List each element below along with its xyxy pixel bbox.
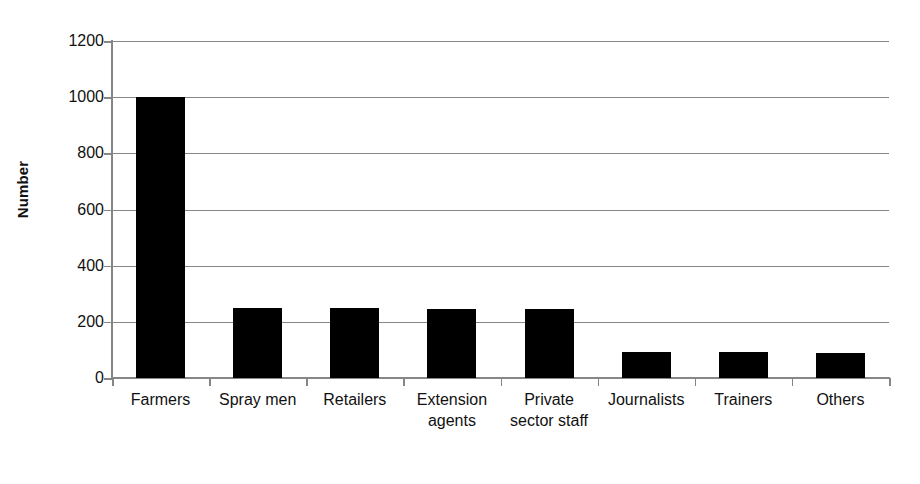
bar-chart: Number 020040060080010001200 FarmersSpra… [0,0,920,484]
gridline [112,97,889,98]
x-axis-tick-mark [501,378,503,386]
x-axis-tick-mark [598,378,600,386]
y-axis-tick-label: 1000 [46,89,104,105]
bar [427,309,476,378]
y-axis-tick-label: 400 [46,258,104,274]
x-axis-category-label: Others [792,389,889,410]
bar [233,308,282,378]
bar [719,352,768,378]
bar [525,309,574,378]
x-axis-tick-mark [112,378,114,386]
y-axis-tick-label: 0 [46,370,104,386]
bar [330,308,379,378]
x-axis-category-label: Trainers [695,389,792,410]
bar [622,352,671,378]
x-axis-tick-mark [792,378,794,386]
gridline [112,322,889,323]
y-axis-tick-label: 1200 [46,33,104,49]
x-axis-category-label: Private sector staff [501,389,598,431]
x-axis-tick-mark [209,378,211,386]
gridline [112,210,889,211]
x-axis-category-label: Spray men [209,389,306,410]
gridline [112,266,889,267]
x-axis-tick-mark [403,378,405,386]
y-axis-tick-label: 600 [46,202,104,218]
x-axis-category-label: Farmers [112,389,209,410]
y-axis-title: Number [0,0,46,378]
bar [136,97,185,378]
x-axis-tick-mark [695,378,697,386]
gridline [112,41,889,42]
x-axis-category-labels: FarmersSpray menRetailersExtension agent… [112,389,889,484]
y-axis-title-label: Number [15,160,32,217]
gridline [112,153,889,154]
y-axis-tick-labels: 020040060080010001200 [46,0,104,484]
plot-area [112,41,889,378]
bar [816,353,865,378]
x-axis-category-label: Extension agents [403,389,500,431]
x-axis-tick-mark [889,378,891,386]
x-axis-category-label: Journalists [598,389,695,410]
y-axis-tick-label: 200 [46,314,104,330]
x-axis-tick-mark [306,378,308,386]
y-axis-tick-label: 800 [46,145,104,161]
x-axis-category-label: Retailers [306,389,403,410]
